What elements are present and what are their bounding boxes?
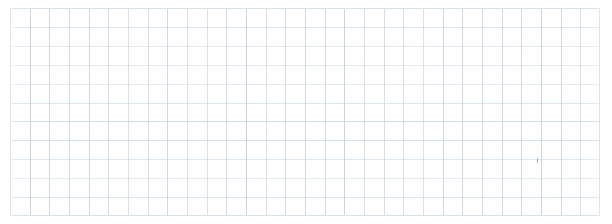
horizontal-grid-lines bbox=[10, 8, 600, 216]
grid-line-horizontal bbox=[10, 140, 600, 141]
grid-line-horizontal bbox=[10, 65, 600, 66]
grid-line-horizontal bbox=[10, 159, 600, 160]
grid-line-horizontal bbox=[10, 8, 600, 9]
grid-line-horizontal bbox=[10, 27, 600, 28]
grid-area bbox=[10, 8, 600, 216]
grid-line-horizontal bbox=[10, 84, 600, 85]
grid-line-horizontal bbox=[10, 197, 600, 198]
grid-line-horizontal bbox=[10, 46, 600, 47]
grid-line-horizontal bbox=[10, 103, 600, 104]
graph-paper-page bbox=[0, 0, 612, 224]
grid-line-horizontal bbox=[10, 121, 600, 122]
grid-line-horizontal bbox=[10, 178, 600, 179]
